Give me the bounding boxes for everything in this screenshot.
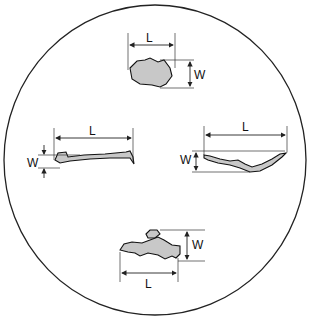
- field-of-view-circle: [4, 5, 306, 315]
- particle-right: L W: [180, 120, 287, 172]
- length-label-left: L: [89, 124, 96, 138]
- particle-top: L W: [128, 31, 206, 88]
- width-label-right: W: [180, 153, 192, 167]
- length-label-bottom: L: [145, 277, 152, 291]
- width-label-left: W: [27, 156, 39, 170]
- particle-left: L W: [27, 124, 134, 178]
- length-label-top: L: [146, 31, 153, 45]
- particle-bottom: L W: [120, 230, 205, 291]
- particle-bottom-shape: [120, 237, 180, 259]
- particle-right-shape: [204, 153, 286, 172]
- width-label-top: W: [194, 68, 206, 82]
- particle-measurement-diagram: L W L W L W L: [0, 0, 309, 319]
- particle-left-shape: [55, 151, 134, 164]
- width-label-bottom: W: [192, 238, 204, 252]
- particle-top-shape: [130, 58, 172, 87]
- length-label-right: L: [242, 120, 249, 134]
